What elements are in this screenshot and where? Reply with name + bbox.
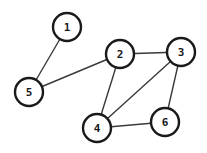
node-1: 1 [53,13,81,41]
node-label-5: 5 [26,86,33,99]
node-2: 2 [106,40,134,68]
node-6: 6 [151,108,179,136]
node-label-3: 3 [178,46,185,59]
node-5: 5 [15,78,43,106]
node-label-2: 2 [117,48,124,61]
node-3: 3 [167,38,195,66]
graph-diagram: 123456 [0,0,207,153]
node-label-1: 1 [64,21,71,34]
node-label-6: 6 [162,116,169,129]
graph-canvas: 123456 [0,0,207,153]
node-4: 4 [83,114,111,142]
node-label-4: 4 [94,122,101,135]
